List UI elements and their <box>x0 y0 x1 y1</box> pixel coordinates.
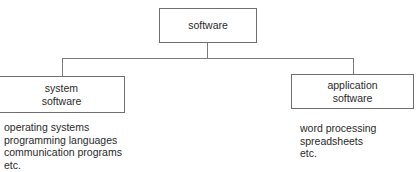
example-item: etc. <box>300 147 376 160</box>
node-label-line: system <box>45 82 78 95</box>
root-node-label: software <box>188 19 228 32</box>
node-label-line: application <box>327 79 377 92</box>
root-node-software: software <box>159 8 257 43</box>
system-stem-line <box>62 58 63 77</box>
node-label-line: software <box>333 92 373 105</box>
node-label-line: software <box>42 95 82 108</box>
example-item: word processing <box>300 122 376 135</box>
application-stem-line <box>353 58 354 75</box>
example-item: programming languages <box>4 134 122 147</box>
node-application-software: application software <box>291 74 414 109</box>
example-item: operating systems <box>4 121 122 134</box>
example-item: etc. <box>4 159 122 172</box>
application-software-examples: word processing spreadsheets etc. <box>300 122 376 160</box>
root-stem-line <box>207 42 208 58</box>
example-item: spreadsheets <box>300 135 376 148</box>
node-system-software: system software <box>0 76 125 113</box>
example-item: communication programs <box>4 146 122 159</box>
system-software-examples: operating systems programming languages … <box>4 121 122 171</box>
branch-horizontal-line <box>62 58 354 59</box>
